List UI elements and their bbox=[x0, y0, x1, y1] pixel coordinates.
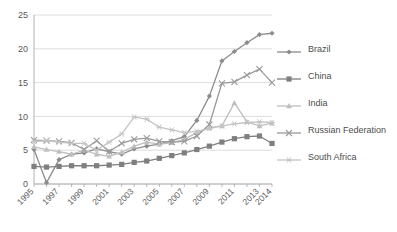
svg-text:2009: 2009 bbox=[190, 186, 211, 207]
legend-label: Brazil bbox=[308, 44, 331, 55]
svg-text:2007: 2007 bbox=[165, 186, 186, 207]
x-axis-tick-labels: 1995199719992001200320052007200920112013… bbox=[15, 186, 274, 207]
svg-text:15: 15 bbox=[18, 78, 28, 88]
svg-text:10: 10 bbox=[18, 112, 28, 122]
gridlines bbox=[34, 15, 272, 184]
svg-text:20: 20 bbox=[18, 44, 28, 54]
legend: Brazil China India Russian Federation So… bbox=[276, 36, 394, 171]
svg-text:1995: 1995 bbox=[15, 186, 36, 207]
svg-text:5: 5 bbox=[23, 145, 28, 155]
svg-text:25: 25 bbox=[18, 10, 28, 20]
legend-marker-diamond-icon bbox=[276, 44, 302, 56]
legend-label: Russian Federation bbox=[308, 125, 386, 136]
legend-marker-triangle-icon bbox=[276, 98, 302, 110]
legend-label: India bbox=[308, 98, 328, 109]
legend-marker-cross-icon bbox=[276, 125, 302, 137]
y-axis-tick-labels: 0510152025 bbox=[18, 10, 28, 189]
series-group bbox=[31, 31, 275, 186]
legend-marker-asterisk-icon bbox=[276, 152, 302, 164]
legend-label: China bbox=[308, 71, 332, 82]
svg-text:2005: 2005 bbox=[140, 186, 161, 207]
legend-item-brazil[interactable]: Brazil bbox=[276, 36, 394, 63]
svg-text:1999: 1999 bbox=[65, 186, 86, 207]
line-chart: 0510152025 19951997199920012003200520072… bbox=[0, 0, 397, 232]
legend-item-india[interactable]: India bbox=[276, 90, 394, 117]
legend-item-south-africa[interactable]: South Africa bbox=[276, 144, 394, 171]
legend-marker-square-icon bbox=[276, 71, 302, 83]
svg-text:2011: 2011 bbox=[216, 186, 236, 206]
svg-text:2001: 2001 bbox=[90, 186, 111, 207]
legend-item-russian-federation[interactable]: Russian Federation bbox=[276, 117, 394, 144]
axis-lines bbox=[34, 15, 272, 184]
legend-item-china[interactable]: China bbox=[276, 63, 394, 90]
svg-text:1997: 1997 bbox=[40, 186, 61, 207]
legend-label: South Africa bbox=[308, 152, 357, 163]
svg-text:2003: 2003 bbox=[115, 186, 136, 207]
